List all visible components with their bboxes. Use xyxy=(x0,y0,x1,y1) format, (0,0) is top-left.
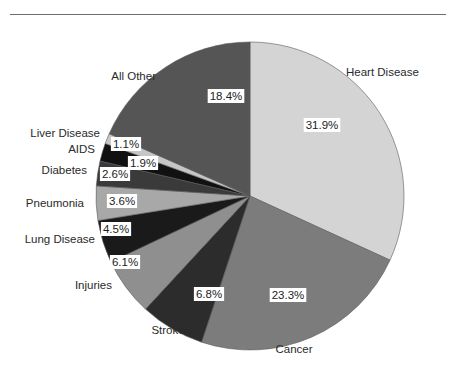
category-label-diabetes: Diabetes xyxy=(42,164,88,176)
category-label-aids: AIDS xyxy=(68,143,95,155)
pct-label-text: 6.1% xyxy=(112,256,138,268)
category-label-all-other: All Other xyxy=(111,70,156,82)
pct-label-text: 2.6% xyxy=(102,168,128,180)
pct-label-text: 23.3% xyxy=(272,289,305,301)
pct-label-lung-disease: 4.5% xyxy=(101,222,131,236)
pct-label-diabetes: 2.6% xyxy=(100,167,130,181)
pct-label-aids: 1.9% xyxy=(128,156,158,170)
pct-label-heart-disease: 31.9% xyxy=(304,118,341,132)
category-label-injuries: Injuries xyxy=(75,279,112,291)
pct-label-stroke: 6.8% xyxy=(194,287,224,301)
pct-label-text: 6.8% xyxy=(196,288,222,300)
pct-label-cancer: 23.3% xyxy=(270,288,307,302)
pct-label-text: 1.1% xyxy=(113,138,139,150)
pct-label-text: 4.5% xyxy=(103,223,129,235)
category-label-lung-disease: Lung Disease xyxy=(25,233,95,245)
pct-label-text: 3.6% xyxy=(109,195,135,207)
category-label-heart-disease: Heart Disease xyxy=(346,66,419,78)
category-label-cancer: Cancer xyxy=(275,343,312,355)
pct-label-text: 18.4% xyxy=(210,90,243,102)
pct-label-injuries: 6.1% xyxy=(110,255,140,269)
category-label-pneumonia: Pneumonia xyxy=(26,197,85,209)
pct-label-all-other: 18.4% xyxy=(208,89,245,103)
pct-label-liver-disease: 1.1% xyxy=(111,137,141,151)
category-label-stroke: Stroke xyxy=(151,324,184,336)
pct-label-text: 31.9% xyxy=(306,119,339,131)
pie-chart: 31.9%23.3%6.8%6.1%4.5%3.6%2.6%1.9%1.1%18… xyxy=(0,0,459,371)
pct-label-text: 1.9% xyxy=(130,157,156,169)
pct-label-pneumonia: 3.6% xyxy=(107,194,137,208)
pie-slices xyxy=(96,42,404,350)
category-label-liver-disease: Liver Disease xyxy=(30,127,100,139)
